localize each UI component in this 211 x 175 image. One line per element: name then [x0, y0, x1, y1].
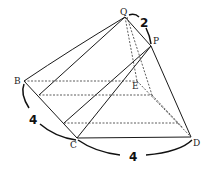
- arc-CD-left: [78, 140, 120, 155]
- arc-CD-right: [146, 140, 192, 155]
- measure-CD: 4: [129, 150, 137, 164]
- edge-PC: [77, 46, 151, 138]
- label-Q: Q: [120, 7, 127, 17]
- label-D: D: [193, 138, 200, 148]
- edge-BC: [24, 81, 77, 138]
- dashed-edges: [24, 17, 191, 137]
- label-E: E: [132, 81, 139, 91]
- solid-edges: [24, 17, 191, 138]
- edge-CD: [77, 137, 191, 138]
- dash-ED: [137, 81, 191, 137]
- measure-QP: 2: [140, 16, 148, 30]
- arc-QP-top: [129, 14, 139, 17]
- label-P: P: [153, 36, 159, 46]
- diagram-canvas: Q P B E C D 2 4 4: [0, 0, 211, 175]
- arc-BC-top: [23, 84, 29, 108]
- arc-BC-bottom: [40, 124, 76, 140]
- label-B: B: [14, 76, 21, 86]
- measure-BC: 4: [29, 113, 37, 127]
- edge-Q-section: [39, 17, 125, 95]
- edge-QB: [24, 17, 125, 81]
- label-C: C: [70, 140, 77, 150]
